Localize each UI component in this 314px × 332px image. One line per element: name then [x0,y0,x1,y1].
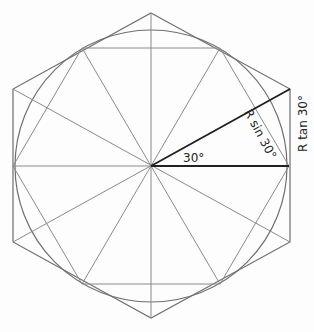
angle-label: 30° [183,151,204,165]
hexagon-diagram: 30° R sin 30° R tan 30° [0,0,314,332]
r-tan-label: R tan 30° [296,95,310,152]
r-sin-label: R sin 30° [241,107,279,162]
diagram-svg: 30° R sin 30° R tan 30° [0,0,314,332]
